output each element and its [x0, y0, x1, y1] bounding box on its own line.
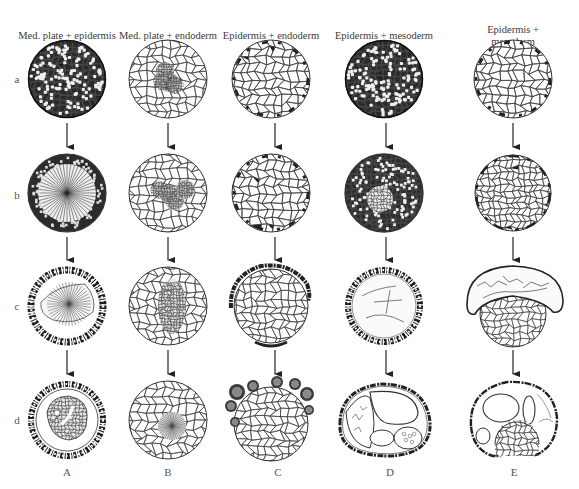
explant-d-b [336, 148, 438, 246]
explant-a-d [28, 381, 106, 459]
explant-a-b [28, 154, 106, 232]
explant-b-b [118, 144, 231, 252]
explant-e-b [467, 148, 570, 247]
explant-d-d [340, 381, 430, 459]
explant-c-d [221, 376, 330, 479]
explant-b-c [116, 257, 231, 365]
embryo-explant-diagram [0, 0, 579, 489]
explant-e-d [471, 381, 559, 482]
explant-b-d [116, 371, 231, 479]
explant-e-a [463, 30, 576, 139]
explant-b-a [116, 30, 230, 139]
explant-a-a [21, 32, 123, 131]
explant-drawings [21, 30, 577, 482]
explant-a-c [28, 267, 106, 345]
explant-c-c [224, 260, 330, 361]
explant-d-a [337, 32, 439, 132]
explant-d-c [345, 267, 423, 345]
explant-e-c [467, 266, 570, 367]
explant-c-b [222, 144, 334, 252]
explant-c-a [219, 30, 333, 138]
